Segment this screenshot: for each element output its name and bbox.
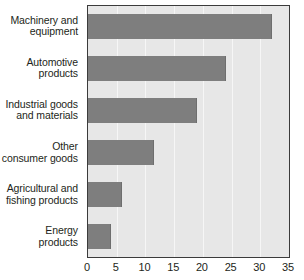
category-axis: Machinery and equipment Automotive produ… [0, 5, 82, 258]
bar [88, 140, 154, 165]
bar-slot [88, 215, 289, 257]
category-label: Machinery and equipment [0, 5, 82, 47]
gridline [289, 6, 290, 257]
x-tick-label: 15 [167, 261, 179, 274]
bar [88, 14, 272, 39]
x-tick-label: 10 [139, 261, 151, 274]
plot-area [87, 5, 290, 258]
category-label: Industrial goods and materials [0, 89, 82, 131]
bar [88, 182, 122, 207]
value-axis: 05101520253035 [87, 259, 290, 279]
bar-slot [88, 131, 289, 173]
bar-slot [88, 6, 289, 48]
x-tick-label: 30 [253, 261, 265, 274]
bar-slot [88, 173, 289, 215]
x-tick-label: 25 [225, 261, 237, 274]
bar-slot [88, 90, 289, 132]
category-label: Agricultural and fishing products [0, 174, 82, 216]
bar-slot [88, 48, 289, 90]
bar [88, 56, 226, 81]
category-label: Energy products [0, 216, 82, 258]
bar-chart: Machinery and equipment Automotive produ… [0, 0, 304, 280]
x-tick-label: 0 [84, 261, 90, 274]
bar [88, 98, 197, 123]
x-tick-label: 5 [113, 261, 119, 274]
x-tick-label: 20 [196, 261, 208, 274]
bar-series [88, 6, 289, 257]
x-tick-label: 35 [282, 261, 294, 274]
bar [88, 224, 111, 249]
category-label: Automotive products [0, 47, 82, 89]
category-label: Other consumer goods [0, 132, 82, 174]
